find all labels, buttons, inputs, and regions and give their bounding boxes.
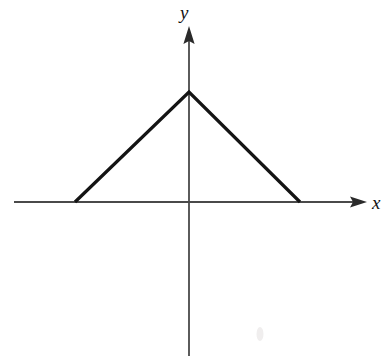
plot-canvas [0, 0, 387, 356]
y-axis-label: y [180, 3, 188, 22]
figure-root: y x [0, 0, 387, 356]
triangular-pulse-curve [75, 92, 300, 202]
x-axis-label: x [372, 193, 380, 212]
scan-speck-artifact [257, 327, 264, 341]
